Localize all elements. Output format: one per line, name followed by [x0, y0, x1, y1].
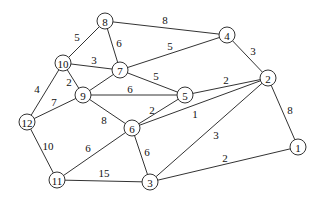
node-10: 10 [55, 55, 71, 71]
node-label: 12 [22, 117, 33, 129]
node-label: 6 [129, 123, 135, 135]
edge-weight-label: 6 [127, 83, 133, 95]
node-9: 9 [75, 87, 91, 103]
edge-weight-label: 8 [101, 114, 107, 126]
node-12: 12 [19, 114, 35, 130]
node-label: 7 [117, 65, 123, 77]
edge-weight-label: 15 [99, 167, 111, 179]
nodes-layer: 123456789101112 [19, 13, 306, 190]
node-label: 11 [52, 175, 63, 187]
edge-11-6 [57, 128, 132, 180]
node-8: 8 [97, 13, 113, 29]
node-label: 2 [265, 73, 271, 85]
node-label: 8 [102, 16, 108, 28]
edge-weight-label: 2 [222, 152, 228, 164]
edge-weight-label: 6 [144, 146, 150, 158]
node-2: 2 [260, 70, 276, 86]
edge-weight-label: 4 [34, 83, 40, 95]
edge-weight-label: 2 [149, 104, 155, 116]
node-7: 7 [112, 62, 128, 78]
edge-11-3 [57, 180, 150, 182]
edge-6-2 [132, 78, 268, 128]
node-1: 1 [290, 139, 306, 155]
edge-weight-label: 2 [66, 76, 72, 88]
node-label: 1 [295, 142, 301, 154]
edge-weight-label: 5 [153, 70, 159, 82]
node-5: 5 [177, 87, 193, 103]
node-6: 6 [124, 120, 140, 136]
node-label: 5 [182, 90, 188, 102]
edge-2-1 [268, 78, 298, 147]
edge-weights-layer: 856533245267821831066152 [34, 14, 293, 179]
edge-7-4 [120, 35, 227, 70]
edge-weight-label: 5 [74, 31, 80, 43]
edge-4-2 [227, 35, 268, 78]
edge-weight-label: 6 [116, 37, 122, 49]
edge-8-10 [63, 21, 105, 63]
node-label: 9 [80, 90, 86, 102]
node-3: 3 [142, 174, 158, 190]
node-label: 3 [147, 177, 153, 189]
edges-layer [27, 21, 298, 182]
node-label: 4 [224, 30, 230, 42]
node-4: 4 [219, 27, 235, 43]
edge-weight-label: 5 [167, 40, 173, 52]
edge-weight-label: 2 [223, 74, 229, 86]
edge-weight-label: 8 [162, 14, 168, 26]
edge-weight-label: 6 [85, 142, 91, 154]
node-label: 10 [58, 58, 70, 70]
node-11: 11 [49, 172, 65, 188]
edge-weight-label: 3 [91, 54, 97, 66]
edge-2-3 [150, 78, 268, 182]
edge-weight-label: 8 [287, 104, 293, 116]
edge-weight-label: 3 [250, 45, 256, 57]
graph-diagram: 856533245267821831066152 123456789101112 [0, 0, 321, 199]
edge-weight-label: 1 [192, 108, 198, 120]
edge-weight-label: 7 [51, 96, 57, 108]
edge-weight-label: 10 [43, 140, 55, 152]
edge-weight-label: 3 [213, 129, 219, 141]
edge-9-6 [83, 95, 132, 128]
